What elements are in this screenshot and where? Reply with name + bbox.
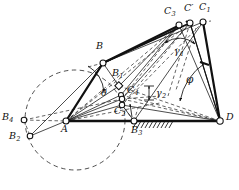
joint-C3 xyxy=(176,22,182,28)
label-C3-sub: 3 xyxy=(172,10,176,18)
joint-D xyxy=(217,118,223,124)
joint-C4 xyxy=(119,96,124,101)
label-C4-sub: 4 xyxy=(135,89,139,97)
label-phi: φ xyxy=(186,74,193,85)
label-B2: B2 xyxy=(9,131,20,141)
joint-B2 xyxy=(27,133,33,139)
label-A: A xyxy=(61,124,68,134)
label-B4-sub: 4 xyxy=(9,116,13,124)
label-C4-base: C xyxy=(127,84,134,95)
label-C3: C3 xyxy=(164,6,175,16)
label-C2-sub: 2 xyxy=(122,110,126,118)
label-Cprime: C′ xyxy=(184,3,193,13)
angle-arc-gamma1 xyxy=(165,38,195,44)
label-gamma2-base: γ xyxy=(156,87,162,98)
label-B1-sub: 1 xyxy=(119,72,123,80)
label-B3: B3 xyxy=(131,125,142,135)
label-gamma2: γ2 xyxy=(156,88,166,98)
label-B2-sub: 2 xyxy=(16,135,20,143)
label-gamma1-sub: 1 xyxy=(180,50,184,58)
label-C1: C1 xyxy=(199,2,210,12)
bar-coupler-BCp xyxy=(103,23,190,63)
label-gamma1: γ1 xyxy=(174,46,184,56)
label-B3-base: B xyxy=(131,124,138,135)
linkage-figure: B B1 B2 B3 B4 C1 C′ C3 C4 C2 A D θ φ γ1 … xyxy=(0,0,239,190)
label-C1-sub: 1 xyxy=(207,6,211,14)
label-C3-base: C xyxy=(164,5,171,16)
label-B3-sub: 3 xyxy=(138,129,142,137)
label-D: D xyxy=(226,112,234,122)
label-B4: B4 xyxy=(2,112,13,122)
label-C2: C2 xyxy=(114,106,125,116)
label-B1-base: B xyxy=(112,67,119,78)
label-B2-base: B xyxy=(9,130,16,141)
linkage-diagram-svg xyxy=(0,0,239,190)
label-B1: B1 xyxy=(112,68,123,78)
pivot-arrow-B3 xyxy=(130,104,132,117)
bar-rocker-C1D xyxy=(203,22,220,121)
label-C2-base: C xyxy=(114,105,121,116)
joint-C1 xyxy=(200,19,206,25)
joint-B xyxy=(100,60,106,66)
joint-B4 xyxy=(21,117,27,123)
angle-bracket-gamma2 xyxy=(144,86,154,100)
label-C4: C4 xyxy=(127,85,138,95)
label-B4-base: B xyxy=(2,111,9,122)
label-gamma1-base: γ xyxy=(174,45,180,56)
label-C1-base: C xyxy=(199,1,206,12)
joint-Cprime xyxy=(187,20,193,26)
label-B: B xyxy=(96,41,103,51)
label-gamma2-sub: 2 xyxy=(162,92,166,100)
label-theta: θ xyxy=(101,88,107,98)
